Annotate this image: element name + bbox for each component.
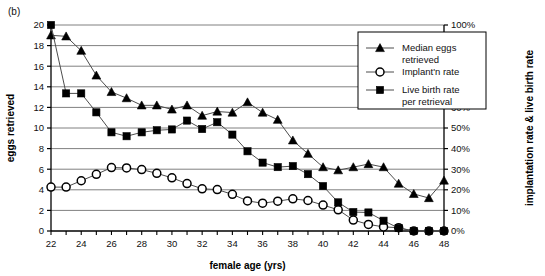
legend-label-line1: Median eggs bbox=[402, 42, 457, 53]
y-axis-right-tick-label: 100% bbox=[451, 19, 476, 30]
x-axis-tick-label: 38 bbox=[288, 238, 299, 249]
x-axis-tick-label: 26 bbox=[106, 238, 117, 249]
y-axis-right-tick-label: 10% bbox=[451, 205, 471, 216]
data-point-square bbox=[138, 129, 145, 136]
data-point-circle bbox=[92, 170, 100, 178]
legend-marker-square bbox=[376, 86, 383, 93]
figure-container: (b) 024681012141618200%10%20%30%40%50%60… bbox=[0, 0, 545, 276]
data-point-circle bbox=[138, 166, 146, 174]
data-point-square bbox=[229, 131, 236, 138]
x-axis-tick-label: 22 bbox=[46, 238, 57, 249]
data-point-circle bbox=[168, 174, 176, 182]
data-point-circle bbox=[244, 197, 252, 205]
data-point-square bbox=[153, 127, 160, 134]
x-axis-tick-label: 46 bbox=[408, 238, 419, 249]
data-point-triangle bbox=[92, 71, 101, 79]
y-axis-left-tick-label: 2 bbox=[39, 205, 44, 216]
data-point-square bbox=[410, 227, 417, 234]
x-axis-tick-label: 42 bbox=[348, 238, 359, 249]
data-point-circle bbox=[213, 186, 221, 194]
y-axis-right-tick-label: 20% bbox=[451, 184, 471, 195]
legend-group: Median eggsretrievedImplant'n rateLive b… bbox=[358, 32, 486, 109]
series-circle bbox=[47, 164, 448, 235]
data-point-circle bbox=[123, 164, 131, 172]
y-axis-left-tick-label: 8 bbox=[39, 143, 44, 154]
data-point-triangle bbox=[213, 107, 222, 115]
legend-item[interactable]: Implant'n rate bbox=[366, 66, 459, 77]
data-point-square bbox=[168, 126, 175, 133]
data-point-square bbox=[63, 90, 70, 97]
y-axis-left-tick-label: 16 bbox=[33, 61, 44, 72]
y-axis-left-tick-label: 12 bbox=[33, 102, 44, 113]
x-axis-tick-label: 28 bbox=[136, 238, 147, 249]
data-point-circle bbox=[334, 206, 342, 214]
y-axis-left-tick-label: 14 bbox=[33, 81, 44, 92]
data-point-triangle bbox=[243, 98, 252, 106]
data-point-circle bbox=[349, 216, 357, 224]
data-point-square bbox=[93, 109, 100, 116]
data-point-circle bbox=[274, 197, 282, 205]
legend-marker-circle bbox=[376, 68, 384, 76]
data-point-circle bbox=[228, 190, 236, 198]
data-point-triangle bbox=[258, 108, 267, 116]
y-axis-left-tick-label: 0 bbox=[39, 225, 44, 236]
y-axis-right-tick-label: 40% bbox=[451, 143, 471, 154]
legend-label-line2: per retrieval bbox=[402, 96, 452, 107]
data-point-circle bbox=[304, 197, 312, 205]
data-point-triangle bbox=[288, 136, 297, 144]
data-point-square bbox=[183, 117, 190, 124]
chart-canvas: 024681012141618200%10%20%30%40%50%60%70%… bbox=[0, 0, 545, 276]
y-axis-right-tick-label: 0% bbox=[451, 225, 465, 236]
data-point-circle bbox=[77, 177, 85, 185]
legend-label-line1: Live birth rate bbox=[402, 84, 460, 95]
legend-label-line1: Implant'n rate bbox=[402, 66, 459, 77]
data-point-square bbox=[244, 148, 251, 155]
x-axis-tick-label: 34 bbox=[227, 238, 238, 249]
data-point-circle bbox=[198, 185, 206, 193]
data-point-square bbox=[425, 227, 432, 234]
data-point-square bbox=[123, 133, 130, 140]
y-axis-left-tick-label: 10 bbox=[33, 122, 44, 133]
data-point-triangle bbox=[440, 176, 449, 184]
y-axis-left-tick-label: 18 bbox=[33, 40, 44, 51]
data-point-square bbox=[78, 90, 85, 97]
x-axis-tick-label: 30 bbox=[167, 238, 178, 249]
data-point-triangle bbox=[183, 101, 192, 109]
x-axis-tick-label: 36 bbox=[257, 238, 268, 249]
data-point-square bbox=[214, 119, 221, 126]
data-point-square bbox=[380, 217, 387, 224]
y-axis-right-tick-label: 50% bbox=[451, 122, 471, 133]
data-point-circle bbox=[153, 169, 161, 177]
data-point-square bbox=[335, 199, 342, 206]
data-point-circle bbox=[319, 201, 327, 209]
x-axis-tick-label: 44 bbox=[378, 238, 389, 249]
y-axis-right-tick-label: 30% bbox=[451, 164, 471, 175]
x-axis-tick-label: 32 bbox=[197, 238, 208, 249]
data-point-square bbox=[199, 125, 206, 132]
y-axis-left-title: eggs retrieved bbox=[5, 94, 16, 162]
data-point-square bbox=[274, 164, 281, 171]
y-axis-left-tick-label: 6 bbox=[39, 164, 44, 175]
data-point-circle bbox=[47, 183, 55, 191]
data-point-circle bbox=[183, 180, 191, 188]
data-point-circle bbox=[62, 183, 70, 191]
y-axis-left-tick-label: 4 bbox=[39, 184, 44, 195]
data-point-circle bbox=[289, 195, 297, 203]
data-point-triangle bbox=[122, 94, 131, 102]
data-point-circle bbox=[259, 199, 267, 207]
data-point-circle bbox=[364, 220, 372, 228]
data-point-square bbox=[440, 227, 447, 234]
data-point-square bbox=[304, 171, 311, 178]
y-axis-left-tick-label: 20 bbox=[33, 19, 44, 30]
data-point-circle bbox=[107, 164, 115, 172]
data-point-triangle bbox=[364, 160, 373, 168]
data-point-triangle bbox=[409, 190, 418, 198]
x-axis-tick-label: 24 bbox=[76, 238, 87, 249]
x-axis-tick-label: 40 bbox=[318, 238, 329, 249]
data-point-square bbox=[289, 163, 296, 170]
y-axis-right-title: implantation rate & live birth rate bbox=[524, 49, 535, 206]
data-point-triangle bbox=[273, 115, 282, 123]
legend-label-line2: retrieved bbox=[402, 54, 439, 65]
data-point-square bbox=[319, 182, 326, 189]
data-point-square bbox=[365, 209, 372, 216]
